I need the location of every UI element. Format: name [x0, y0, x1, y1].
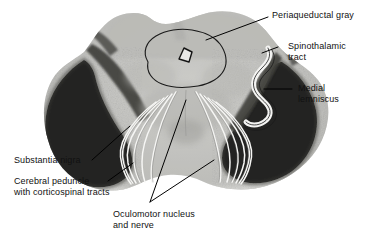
specimen-image	[0, 0, 375, 243]
specimen-grain	[30, 0, 350, 243]
midbrain-figure: Periaqueductal gray Spinothalamic tract …	[0, 0, 375, 243]
specimen-tissue	[30, 0, 350, 243]
label-medial-lemniscus-line1: Medial	[298, 83, 325, 94]
label-spinothalamic-tract-line1: Spinothalamic	[288, 41, 346, 52]
label-spinothalamic-tract-line2: tract	[288, 52, 306, 63]
label-oculomotor-line2: and nerve	[113, 220, 154, 231]
label-medial-lemniscus-line2: lemniscus	[298, 94, 339, 105]
label-cerebral-peduncle-line2: with corticospinal tracts	[14, 187, 110, 198]
label-oculomotor-line1: Oculomotor nucleus	[113, 209, 195, 220]
label-periaqueductal-gray: Periaqueductal gray	[272, 10, 354, 21]
label-cerebral-peduncle-line1: Cerebral peduncle	[14, 176, 89, 187]
label-substantia-nigra: Substantia nigra	[14, 155, 81, 166]
